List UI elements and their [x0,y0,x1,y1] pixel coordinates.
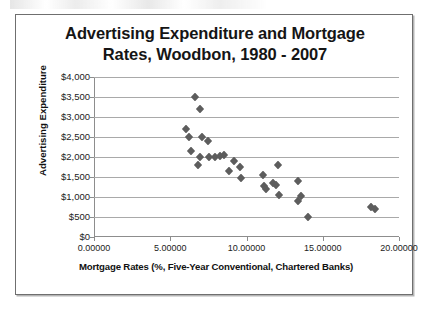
data-point [293,177,301,185]
data-point [191,93,199,101]
plot-area [94,77,399,237]
y-tick-mark [90,137,94,138]
data-point [194,161,202,169]
x-tick-mark [323,237,324,241]
gridline [94,137,399,138]
y-tick-label: $4,000 [61,72,90,82]
y-tick-mark [90,77,94,78]
data-point [237,174,245,182]
scan-artifact [10,0,310,9]
y-tick-label: $1,000 [61,192,90,202]
data-point [185,133,193,141]
data-point [371,205,379,213]
chart-title-line-2: Rates, Woodbon, 1980 - 2007 [40,44,390,65]
gridline [94,97,399,98]
y-axis-tick-labels: $0$500$1,000$1,500$2,000$2,500$3,000$3,5… [38,77,90,237]
data-point [272,180,280,188]
x-tick-mark [399,237,400,241]
y-tick-label: $1,500 [61,172,90,182]
gridline [94,197,399,198]
data-point [182,125,190,133]
data-point [229,157,237,165]
y-tick-mark [90,217,94,218]
y-tick-label: $2,500 [61,132,90,142]
y-tick-label: $2,000 [61,152,90,162]
gridline [94,177,399,178]
y-tick-label: $3,000 [61,112,90,122]
chart-title-line-1: Advertising Expenditure and Mortgage [40,23,390,44]
chart-frame: Advertising Expenditure and Mortgage Rat… [15,14,413,295]
chart-title: Advertising Expenditure and Mortgage Rat… [40,23,390,65]
gridline [94,77,399,78]
gridline [94,117,399,118]
x-tick-label: 10.00000 [228,243,266,253]
y-tick-mark [90,157,94,158]
x-tick-label: 5.00000 [154,243,187,253]
y-tick-mark [90,177,94,178]
x-axis-title: Mortgage Rates (%, Five-Year Conventiona… [46,261,386,272]
y-tick-label: $3,500 [61,92,90,102]
x-tick-label: 15.00000 [304,243,342,253]
gridline [94,217,399,218]
data-point [225,167,233,175]
y-tick-mark [90,117,94,118]
data-point [187,147,195,155]
data-point [196,105,204,113]
x-tick-mark [170,237,171,241]
x-axis-tick-labels: 0.000005.0000010.0000015.0000020.00000 [94,243,399,257]
data-point [304,213,312,221]
x-tick-mark [94,237,95,241]
x-tick-label: 0.00000 [78,243,111,253]
gridline [94,157,399,158]
y-tick-mark [90,197,94,198]
data-point [235,163,243,171]
y-tick-label: $500 [69,212,90,222]
x-tick-label: 20.00000 [380,243,418,253]
y-tick-label: $0 [79,232,90,242]
data-point [274,161,282,169]
y-tick-mark [90,97,94,98]
x-tick-mark [247,237,248,241]
